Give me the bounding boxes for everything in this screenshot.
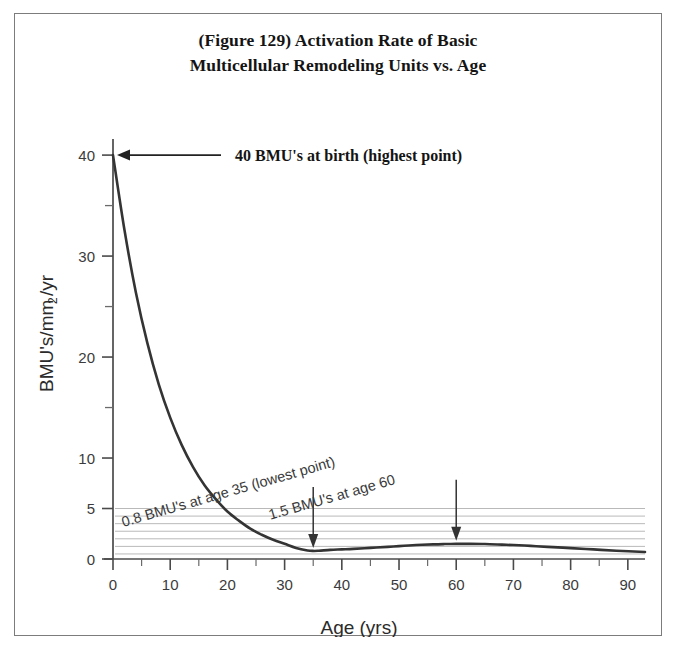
data-curve [113, 155, 645, 552]
chart-plot: 01020304050607080900510203040 40 BMU's a… [15, 14, 663, 637]
y-tick-label: 40 [78, 147, 95, 164]
peak-annotation-label: 40 BMU's at birth (highest point) [235, 147, 462, 165]
x-tick-label: 30 [276, 576, 293, 593]
y-tick-label: 20 [78, 349, 95, 366]
bmu-activation-curve [113, 155, 645, 552]
y-tick-label: 30 [78, 248, 95, 265]
x-tick-label: 10 [162, 576, 179, 593]
min-annotation-arrow-head [308, 534, 318, 548]
min-annotation-label: 0.8 BMU's at age 35 (lowest point) [120, 453, 337, 529]
y-axis-title: BMU's/mm2/yr [36, 274, 60, 392]
y-tick-label: 0 [87, 551, 95, 568]
y-axis-title-tail: /yr [36, 274, 57, 296]
x-tick-label: 50 [391, 576, 408, 593]
x-tick-label: 80 [562, 576, 579, 593]
x-tick-label: 70 [505, 576, 522, 593]
x-tick-label: 20 [219, 576, 236, 593]
y-tick-label: 5 [87, 500, 95, 517]
y-axis-title-main: BMU's/mm [36, 300, 57, 392]
axis-tick-labels: 01020304050607080900510203040 [78, 147, 636, 593]
x-tick-label: 40 [333, 576, 350, 593]
x-tick-label: 60 [448, 576, 465, 593]
x-tick-label: 90 [619, 576, 636, 593]
y-axis-title-subscript: 2 [46, 297, 60, 304]
chart-annotations: 40 BMU's at birth (highest point)0.8 BMU… [117, 147, 462, 548]
x-tick-label: 0 [109, 576, 117, 593]
figure-frame: (Figure 129) Activation Rate of Basic Mu… [14, 13, 662, 636]
y-tick-label: 10 [78, 450, 95, 467]
peak-arrow-head [117, 150, 130, 161]
x-axis-title: Age (yrs) [320, 617, 397, 637]
